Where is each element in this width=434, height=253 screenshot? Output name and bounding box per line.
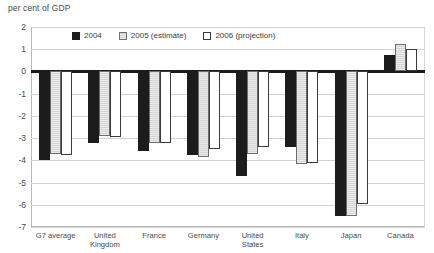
- bar-slot: [138, 27, 149, 227]
- x-axis-category-label: France: [130, 231, 179, 249]
- bar-slot: [247, 27, 258, 227]
- bar-slot: [335, 27, 346, 227]
- legend-swatch-icon: [72, 32, 80, 40]
- bar[interactable]: [357, 71, 368, 203]
- bar[interactable]: [209, 71, 220, 149]
- bar[interactable]: [198, 71, 209, 157]
- plot-area: [31, 27, 425, 227]
- bar-slot: [39, 27, 50, 227]
- x-axis-category-label: Italy: [277, 231, 326, 249]
- x-axis-category-label: United Kingdom: [80, 231, 129, 249]
- bar[interactable]: [50, 71, 61, 153]
- legend-item[interactable]: 2004: [72, 31, 102, 40]
- bar[interactable]: [395, 44, 406, 72]
- bar-group-bars: [80, 27, 129, 227]
- bar[interactable]: [138, 71, 149, 151]
- bar-slot: [384, 27, 395, 227]
- chart-legend: 20042005 (estimate)2006 (projection): [72, 31, 275, 40]
- x-axis-category-label: United States: [228, 231, 277, 249]
- y-axis-tick-label: 2: [0, 22, 26, 32]
- bar[interactable]: [335, 71, 346, 215]
- bar[interactable]: [247, 71, 258, 153]
- bar-slot: [395, 27, 406, 227]
- y-axis-tick-label: -2: [0, 111, 26, 121]
- bar-slot: [198, 27, 209, 227]
- bar-slot: [50, 27, 61, 227]
- bar-slot: [160, 27, 171, 227]
- legend-label: 2006 (projection): [215, 31, 275, 40]
- bar-slot: [285, 27, 296, 227]
- bar[interactable]: [285, 71, 296, 147]
- bar[interactable]: [384, 55, 395, 72]
- bar-slot: [61, 27, 72, 227]
- bar-slot: [357, 27, 368, 227]
- legend-item[interactable]: 2005 (estimate): [119, 31, 187, 40]
- bar-group: [179, 27, 228, 227]
- bar-slot: [307, 27, 318, 227]
- y-axis-tick-label: -4: [0, 155, 26, 165]
- x-axis-category-label: G7 average: [31, 231, 80, 249]
- y-axis-tick-label: -6: [0, 200, 26, 210]
- bar-slot: [187, 27, 198, 227]
- legend-swatch-icon: [203, 32, 211, 40]
- bar[interactable]: [160, 71, 171, 142]
- bar[interactable]: [88, 71, 99, 142]
- y-axis-tick-label: 0: [0, 66, 26, 76]
- bar-group-bars: [376, 27, 425, 227]
- bar-slot: [99, 27, 110, 227]
- bar-chart: per cent of GDP 210-1-2-3-4-5-6-7 G7 ave…: [0, 0, 434, 253]
- bar-group-bars: [228, 27, 277, 227]
- bar-slot: [209, 27, 220, 227]
- bar[interactable]: [307, 71, 318, 162]
- bar-group: [130, 27, 179, 227]
- bar[interactable]: [406, 49, 417, 71]
- bar[interactable]: [99, 71, 110, 135]
- x-axis-category-label: Canada: [376, 231, 425, 249]
- bar-slot: [88, 27, 99, 227]
- x-axis-category-label: Japan: [327, 231, 376, 249]
- x-axis-categories: G7 averageUnited KingdomFranceGermanyUni…: [31, 231, 425, 249]
- bar[interactable]: [296, 71, 307, 163]
- bar-group: [277, 27, 326, 227]
- bar-group: [80, 27, 129, 227]
- legend-label: 2005 (estimate): [131, 31, 187, 40]
- bar-slot: [110, 27, 121, 227]
- bar-slot: [258, 27, 269, 227]
- y-axis-tick-label: -7: [0, 222, 26, 232]
- bar-group-bars: [277, 27, 326, 227]
- bar-groups: [31, 27, 425, 227]
- legend-label: 2004: [84, 31, 102, 40]
- bar-group: [327, 27, 376, 227]
- gridline: [31, 227, 425, 228]
- bar-group: [376, 27, 425, 227]
- bar-slot: [149, 27, 160, 227]
- bar[interactable]: [149, 71, 160, 142]
- bar[interactable]: [110, 71, 121, 137]
- bar[interactable]: [39, 71, 50, 160]
- y-axis-tick-label: 1: [0, 44, 26, 54]
- bar[interactable]: [187, 71, 198, 154]
- y-axis-tick-label: -5: [0, 178, 26, 188]
- bar-slot: [406, 27, 417, 227]
- y-axis-tick-label: -3: [0, 133, 26, 143]
- bar-group: [31, 27, 80, 227]
- legend-swatch-icon: [119, 32, 127, 40]
- bar-group-bars: [327, 27, 376, 227]
- y-axis-tick-label: -1: [0, 89, 26, 99]
- y-axis-title: per cent of GDP: [8, 3, 70, 13]
- x-axis-category-label: Germany: [179, 231, 228, 249]
- bar-slot: [236, 27, 247, 227]
- bar[interactable]: [61, 71, 72, 154]
- bar-group-bars: [130, 27, 179, 227]
- bar[interactable]: [346, 71, 357, 215]
- bar-group-bars: [31, 27, 80, 227]
- bar-slot: [296, 27, 307, 227]
- bar[interactable]: [258, 71, 269, 147]
- legend-item[interactable]: 2006 (projection): [203, 31, 275, 40]
- bar-group-bars: [179, 27, 228, 227]
- bar[interactable]: [236, 71, 247, 175]
- bar-slot: [346, 27, 357, 227]
- bar-group: [228, 27, 277, 227]
